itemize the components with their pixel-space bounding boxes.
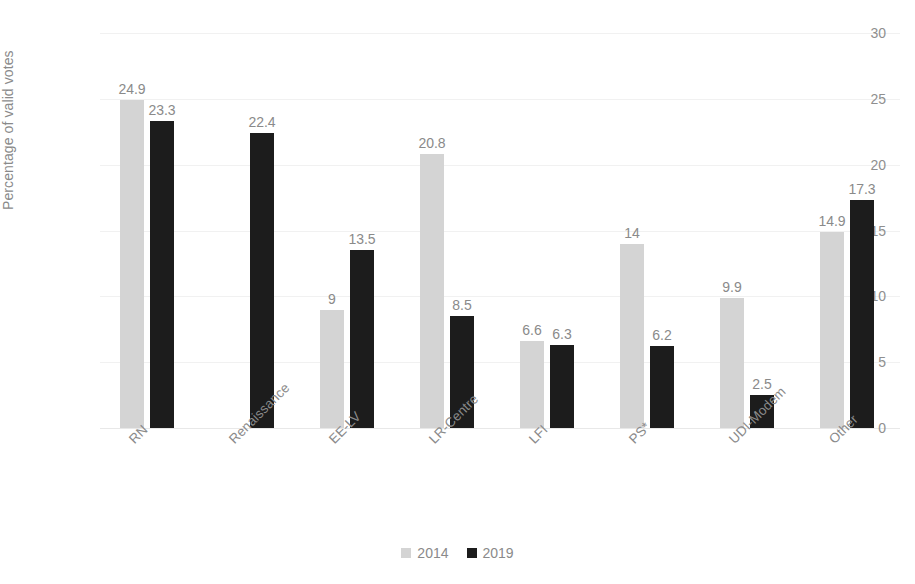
bar[interactable] [420,154,444,428]
bar-group: 14.917.3 [800,33,900,428]
gridline [100,428,900,429]
bar[interactable] [250,133,274,428]
bar-group: 24.923.3 [100,33,200,428]
plot-area: 051015202530 24.923.322.4913.520.88.56.6… [100,33,900,428]
bar-group: 146.2 [600,33,700,428]
bar-value-label: 17.3 [832,181,892,197]
bar[interactable] [320,310,344,429]
bar-value-label: 13.5 [332,231,392,247]
bar-value-label: 24.9 [102,81,162,97]
bar-group: 9.92.5 [700,33,800,428]
bar-value-label: 8.5 [432,297,492,313]
legend-label: 2019 [483,545,514,561]
bar-value-label: 9.9 [702,279,762,295]
bar[interactable] [650,346,674,428]
bar-value-label: 6.3 [532,326,592,342]
y-axis-title: Percentage of valid votes [0,0,24,210]
bar[interactable] [720,298,744,428]
bar-group: 6.66.3 [500,33,600,428]
bar-group: 20.88.5 [400,33,500,428]
bar[interactable] [350,250,374,428]
bar[interactable] [520,341,544,428]
bar[interactable] [550,345,574,428]
legend-swatch-icon [467,548,477,558]
bar-value-label: 23.3 [132,102,192,118]
bar-value-label: 14 [602,225,662,241]
bar-value-label: 6.2 [632,327,692,343]
legend-label: 2014 [417,545,448,561]
legend-swatch-icon [401,548,411,558]
legend-item[interactable]: 2019 [467,545,514,561]
bar[interactable] [120,100,144,428]
legend-item[interactable]: 2014 [401,545,448,561]
bar-chart: Percentage of valid votes 051015202530 2… [0,0,915,584]
bar-group: 913.5 [300,33,400,428]
chart-legend: 20142019 [0,545,915,561]
bar-value-label: 22.4 [232,114,292,130]
bar-value-label: 20.8 [402,135,462,151]
bar[interactable] [150,121,174,428]
bar[interactable] [850,200,874,428]
bar-group: 22.4 [200,33,300,428]
bar[interactable] [820,232,844,428]
